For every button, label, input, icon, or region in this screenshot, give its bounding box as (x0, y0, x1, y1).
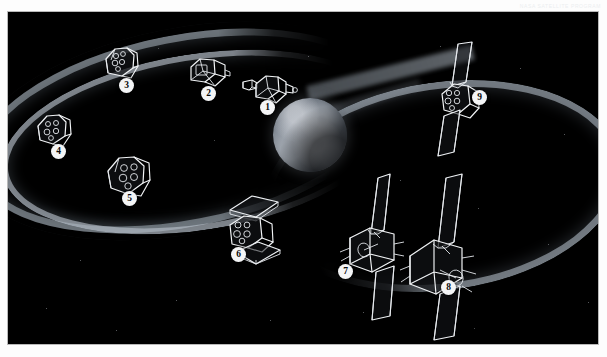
star (308, 56, 309, 57)
callout-8[interactable]: 8 (441, 280, 456, 295)
callout-2[interactable]: 2 (201, 86, 216, 101)
callout-3[interactable]: 3 (119, 78, 134, 93)
star (80, 260, 81, 261)
callout-5[interactable]: 5 (122, 191, 137, 206)
star (46, 308, 47, 309)
callout-4[interactable]: 4 (51, 144, 66, 159)
satellite-2-body (188, 56, 232, 88)
star (564, 134, 565, 135)
star (158, 48, 159, 49)
earth-globe (273, 98, 347, 172)
callout-6[interactable]: 6 (231, 247, 246, 262)
star (176, 300, 177, 301)
star (270, 320, 271, 321)
callout-1[interactable]: 1 (260, 100, 275, 115)
callout-7[interactable]: 7 (338, 264, 353, 279)
star (588, 302, 589, 303)
star (520, 68, 521, 69)
satellite-1-body (252, 72, 298, 106)
illustration-plate: 123456789 (8, 12, 598, 344)
header-strip: NASA SATELLITE PROGRAM (0, 0, 607, 12)
star (548, 244, 549, 245)
satellite-4-body (35, 112, 79, 148)
star (214, 140, 215, 141)
figure-page: NASA SATELLITE PROGRAM (0, 0, 607, 357)
star (116, 330, 117, 331)
satellite-9-body (432, 40, 504, 156)
satellite-3-body (102, 46, 146, 80)
satellite-8-body (400, 174, 500, 340)
header-faint-text: NASA SATELLITE PROGRAM (520, 3, 601, 9)
callout-9[interactable]: 9 (472, 90, 487, 105)
